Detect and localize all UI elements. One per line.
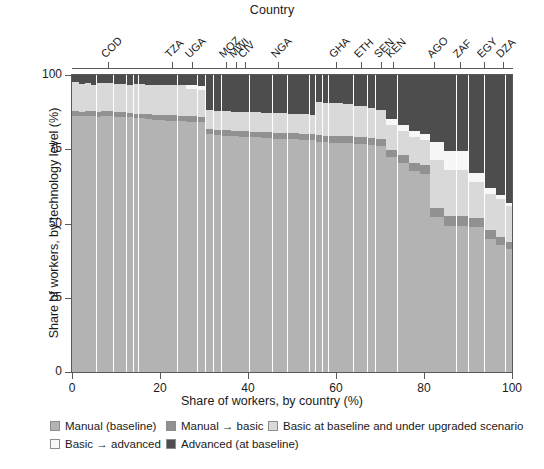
bar-segment-manual-baseline: [386, 157, 397, 372]
bar-segment-basic-both: [398, 130, 409, 156]
bar-segment-advanced: [430, 75, 444, 142]
legend-item[interactable]: Manual (baseline): [50, 420, 156, 432]
bar-segment-basic-to-advanced: [409, 130, 420, 137]
bar-segment-basic-both: [273, 112, 288, 132]
bar-segment-manual-baseline: [354, 143, 368, 372]
bar-segment-basic-to-advanced: [398, 124, 409, 131]
bar-segment-advanced: [250, 75, 261, 112]
y-tick-label: 0: [28, 364, 62, 378]
y-tick: [65, 149, 72, 150]
bar-segment-advanced: [409, 75, 420, 131]
bar-segment-manual-baseline: [186, 121, 197, 372]
bar-segment-manual-baseline: [444, 225, 456, 372]
top-axis-line: [72, 68, 513, 69]
bar-segment-manual-to-basic: [343, 136, 354, 143]
country-label-nga: NGA: [268, 35, 293, 60]
bar-segment-advanced: [386, 75, 397, 119]
country-tick-civ: [245, 62, 246, 68]
bar-segment-manual-to-basic: [457, 215, 469, 225]
x-tick-label: 100: [492, 381, 532, 395]
country-label-uga: UGA: [183, 35, 208, 60]
bar-segment-advanced: [469, 75, 485, 173]
legend-label: Manual → basic: [181, 420, 263, 432]
country-tick-egy: [484, 62, 485, 68]
bar-segment-manual-to-basic: [239, 131, 250, 137]
bar-segment-manual-baseline: [409, 170, 420, 372]
legend-item[interactable]: Basic → advanced: [50, 438, 161, 450]
x-axis-label: Share of workers, by country (%): [0, 394, 544, 408]
country-label-cod: COD: [98, 34, 124, 60]
bar-segment-advanced: [186, 75, 197, 85]
legend-row: Manual (baseline)Manual → basicBasic at …: [0, 420, 544, 437]
country-tick-uga: [192, 62, 193, 68]
bar-segment-advanced: [444, 75, 456, 151]
bar-segment-manual-to-basic: [186, 116, 197, 122]
bar-segment-advanced: [485, 75, 496, 188]
bar-segment-basic-to-advanced: [386, 118, 397, 125]
country-tick-eth: [361, 62, 362, 68]
y-tick: [65, 224, 72, 225]
bar-segment-basic-both: [165, 85, 177, 116]
bar-segment-basic-both: [354, 106, 368, 137]
chart-root: Country Share of workers, by technology …: [0, 0, 544, 469]
bar-segment-advanced: [165, 75, 177, 85]
x-tick: [160, 373, 161, 379]
bar-segment-basic-both: [329, 102, 343, 136]
bar-segment-manual-baseline: [299, 139, 310, 372]
bar-segment-basic-both: [444, 169, 456, 216]
legend-swatch-icon: [50, 421, 60, 431]
bar-segment-manual-baseline: [288, 139, 299, 372]
bar-segment-advanced: [343, 75, 354, 104]
country-label-eth: ETH: [351, 36, 375, 60]
bar-segment-manual-to-basic: [398, 155, 409, 163]
bar-segment-manual-to-basic: [386, 149, 397, 157]
x-tick-label: 80: [404, 381, 444, 395]
legend-item[interactable]: Manual → basic: [166, 420, 263, 432]
bar-segment-basic-both: [288, 113, 299, 133]
bar-segment-basic-both: [261, 112, 272, 132]
bar-segment-manual-to-basic: [506, 241, 512, 249]
bar-segment-basic-both: [469, 181, 485, 217]
bar-segment-advanced: [376, 75, 387, 110]
legend-item[interactable]: Advanced (at baseline): [166, 438, 299, 450]
bar-segment-basic-both: [409, 136, 420, 162]
x-tick: [72, 373, 73, 379]
bar-segment-manual-baseline: [398, 163, 409, 372]
country-tick-mwi: [236, 62, 237, 68]
x-tick: [424, 373, 425, 379]
bar-segment-basic-both: [101, 82, 113, 111]
bar-segment-manual-baseline: [376, 146, 387, 372]
bar-segment-basic-to-advanced: [485, 188, 496, 195]
legend-swatch-icon: [166, 421, 176, 431]
bar-segment-manual-to-basic: [430, 207, 444, 217]
top-axis-title: Country: [0, 3, 544, 17]
bar-segment-basic-to-advanced: [430, 142, 444, 160]
country-tick-zaf: [460, 62, 461, 68]
bar-segment-basic-both: [250, 112, 261, 132]
bar-segment-manual-baseline: [239, 136, 250, 372]
bar-segment-manual-baseline: [485, 238, 496, 372]
country-label-tza: TZA: [163, 37, 186, 60]
bar-segment-advanced: [261, 75, 272, 113]
x-tick-label: 40: [228, 381, 268, 395]
bar-segment-manual-baseline: [165, 120, 177, 372]
bar-segment-manual-to-basic: [329, 135, 343, 142]
y-tick-label: 100: [28, 67, 62, 81]
bar-segment-basic-to-advanced: [186, 85, 197, 89]
legend-label: Basic at baseline and under upgraded sce…: [283, 420, 523, 432]
bar-segment-basic-both: [430, 160, 444, 208]
bar-segment-manual-to-basic: [165, 115, 177, 121]
x-tick-label: 20: [140, 381, 180, 395]
bar-segment-manual-baseline: [261, 137, 272, 372]
bar-segment-manual-baseline: [469, 226, 485, 372]
bar-segment-basic-both: [239, 111, 250, 131]
bar-segment-manual-baseline: [101, 115, 113, 372]
country-tick-ken: [393, 62, 394, 68]
legend-item[interactable]: Basic at baseline and under upgraded sce…: [268, 420, 523, 432]
country-label-egy: EGY: [474, 35, 499, 60]
legend-row: Basic → advancedAdvanced (at baseline): [0, 438, 544, 455]
bar-segment-advanced: [239, 75, 250, 112]
country-label-gha: GHA: [326, 35, 351, 60]
country-tick-sen: [381, 62, 382, 68]
x-tick-label: 60: [316, 381, 356, 395]
